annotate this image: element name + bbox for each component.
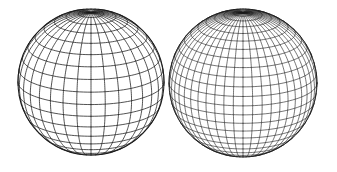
wireframe-spheres-figure	[0, 0, 337, 172]
fine-wireframe-sphere	[169, 9, 317, 157]
wire-line	[91, 13, 132, 154]
wire-line	[243, 13, 253, 157]
wire-line	[243, 13, 271, 157]
wire-line	[224, 13, 243, 157]
wire-line	[77, 13, 91, 155]
wire-line	[50, 13, 91, 154]
wire-line	[215, 13, 243, 157]
wire-line	[243, 13, 262, 157]
wire-line	[233, 13, 243, 157]
coarse-wireframe-sphere	[18, 9, 164, 155]
wire-line	[91, 13, 105, 155]
